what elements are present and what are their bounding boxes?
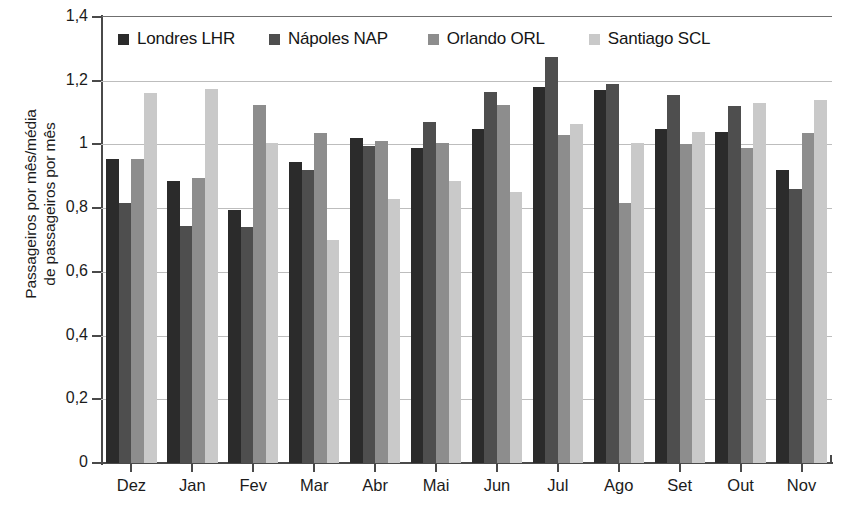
bar	[144, 93, 157, 463]
x-tick-label: Nov	[771, 476, 832, 495]
y-tick-label: 1	[42, 134, 88, 152]
legend-swatch-icon	[589, 34, 600, 45]
bar	[570, 124, 583, 463]
bar	[350, 138, 363, 463]
y-tick-label: 0	[42, 453, 88, 471]
x-tick-label: Out	[710, 476, 771, 495]
x-tick-mark	[740, 463, 742, 472]
bar	[753, 103, 766, 463]
bar	[741, 148, 754, 463]
x-tick-mark	[557, 463, 559, 472]
y-tick-label: 1,2	[42, 71, 88, 89]
bar	[106, 159, 119, 463]
bar	[776, 170, 789, 463]
x-tick-mark	[496, 463, 498, 472]
chart-legend: Londres LHRNápoles NAPOrlando ORLSantiag…	[118, 28, 710, 50]
y-tick-label: 0,6	[42, 262, 88, 280]
legend-label: Nápoles NAP	[288, 29, 388, 49]
x-tick-label: Jun	[467, 476, 528, 495]
bar	[484, 92, 497, 463]
bar	[655, 129, 668, 464]
y-tick-label: 0,4	[42, 326, 88, 344]
x-tick-label: Fev	[223, 476, 284, 495]
bar	[363, 146, 376, 463]
bar	[728, 106, 741, 463]
bar	[497, 105, 510, 463]
bar	[327, 240, 340, 463]
bar	[266, 143, 279, 463]
legend-item: Orlando ORL	[428, 29, 545, 49]
bar	[449, 181, 462, 463]
x-tick-label: Ago	[588, 476, 649, 495]
bar	[533, 87, 546, 463]
bar	[119, 203, 132, 463]
bar	[180, 226, 193, 463]
bar	[302, 170, 315, 463]
legend-label: Londres LHR	[137, 29, 235, 49]
x-tick-label: Jan	[162, 476, 223, 495]
x-tick-mark	[191, 463, 193, 472]
bar	[715, 132, 728, 463]
x-tick-mark	[313, 463, 315, 472]
x-tick-label: Dez	[101, 476, 162, 495]
x-tick-mark	[435, 463, 437, 472]
bar	[436, 143, 449, 463]
bar	[472, 129, 485, 464]
bar	[205, 89, 218, 463]
legend-swatch-icon	[118, 34, 129, 45]
x-tick-mark	[374, 463, 376, 472]
bar	[692, 132, 705, 463]
bar	[606, 84, 619, 463]
y-tick-label: 0,8	[42, 198, 88, 216]
legend-swatch-icon	[269, 34, 280, 45]
bar	[545, 57, 558, 463]
bar	[423, 122, 436, 463]
bar	[667, 95, 680, 463]
bar	[680, 144, 693, 463]
legend-item: Nápoles NAP	[269, 29, 388, 49]
bar	[253, 105, 266, 463]
x-tick-label: Set	[649, 476, 710, 495]
bar	[388, 199, 401, 463]
bar	[594, 90, 607, 463]
x-tick-mark	[130, 463, 132, 472]
x-tick-label: Mai	[406, 476, 467, 495]
legend-swatch-icon	[428, 34, 439, 45]
bar	[314, 133, 327, 463]
bar	[375, 141, 388, 463]
x-tick-label: Mar	[284, 476, 345, 495]
x-tick-mark	[679, 463, 681, 472]
bar	[814, 100, 827, 463]
x-tick-mark	[801, 463, 803, 472]
bar-chart: Passageiros por mês/média de passageiros…	[0, 0, 842, 518]
bar	[619, 203, 632, 463]
y-axis-tick-labels: 1,41,210,80,60,40,20	[36, 0, 88, 518]
bar	[510, 192, 523, 463]
bar	[228, 210, 241, 463]
legend-item: Santiago SCL	[589, 29, 711, 49]
legend-label: Santiago SCL	[608, 29, 711, 49]
legend-item: Londres LHR	[118, 29, 235, 49]
y-tick-label: 1,4	[42, 7, 88, 25]
bar	[131, 159, 144, 463]
legend-label: Orlando ORL	[447, 29, 545, 49]
y-tick-label: 0,2	[42, 389, 88, 407]
bar	[241, 227, 254, 463]
bar	[631, 143, 644, 463]
bar	[411, 148, 424, 463]
bar	[558, 135, 571, 463]
bar	[167, 181, 180, 463]
bars-layer	[101, 17, 832, 463]
bar	[789, 189, 802, 463]
bar	[802, 133, 815, 463]
bar	[192, 178, 205, 463]
x-tick-mark	[618, 463, 620, 472]
x-tick-label: Jul	[527, 476, 588, 495]
bar	[289, 162, 302, 463]
x-tick-mark	[252, 463, 254, 472]
x-tick-label: Abr	[345, 476, 406, 495]
